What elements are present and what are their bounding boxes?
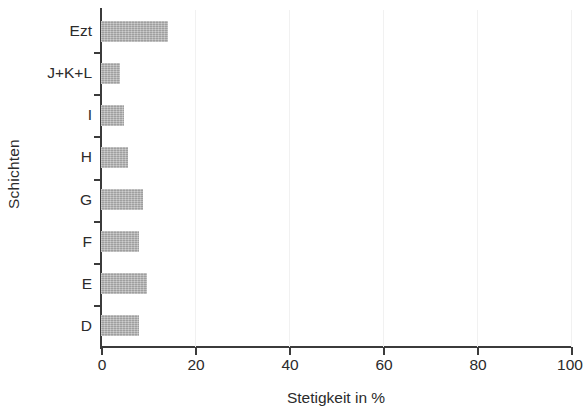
bars-layer xyxy=(101,10,571,347)
bar-track-g xyxy=(101,179,571,221)
y-label-jkl: J+K+L xyxy=(8,65,100,81)
y-label-d: D xyxy=(8,318,100,334)
bar-jkl xyxy=(101,63,120,84)
bar-f xyxy=(101,231,139,252)
bar-track-jkl xyxy=(101,52,571,94)
y-label-e: E xyxy=(8,276,100,292)
x-label-60: 60 xyxy=(375,356,392,374)
bar-g xyxy=(101,189,143,210)
x-label-80: 80 xyxy=(469,356,486,374)
bar-track-f xyxy=(101,221,571,263)
bar-i xyxy=(101,105,124,126)
x-label-20: 20 xyxy=(187,356,204,374)
bar-d xyxy=(101,315,139,336)
gridline-100 xyxy=(571,10,572,347)
x-label-0: 0 xyxy=(98,356,107,374)
x-tick-80 xyxy=(477,347,479,355)
bar-track-d xyxy=(101,305,571,347)
x-tick-40 xyxy=(289,347,291,355)
y-axis-category-labels: Ezt J+K+L I H G F E D xyxy=(0,0,100,414)
y-label-h: H xyxy=(8,150,100,166)
y-label-i: I xyxy=(8,108,100,124)
x-tick-20 xyxy=(195,347,197,355)
bar-ezt xyxy=(101,21,168,42)
bar-track-h xyxy=(101,136,571,178)
y-label-ezt: Ezt xyxy=(8,23,100,39)
plot-area xyxy=(101,10,571,347)
y-label-f: F xyxy=(8,234,100,250)
x-tick-0 xyxy=(101,347,103,355)
bar-h xyxy=(101,147,128,168)
x-label-100: 100 xyxy=(557,356,583,374)
bar-track-e xyxy=(101,263,571,305)
bar-track-ezt xyxy=(101,10,571,52)
bar-e xyxy=(101,273,147,294)
x-label-40: 40 xyxy=(281,356,298,374)
y-label-g: G xyxy=(8,192,100,208)
x-axis-title: Stetigkeit in % xyxy=(101,389,571,407)
bar-track-i xyxy=(101,94,571,136)
x-tick-100 xyxy=(571,347,573,355)
x-tick-60 xyxy=(383,347,385,355)
bar-chart-figure: Schichten Ezt J+K+L I H G F E D xyxy=(0,0,586,414)
